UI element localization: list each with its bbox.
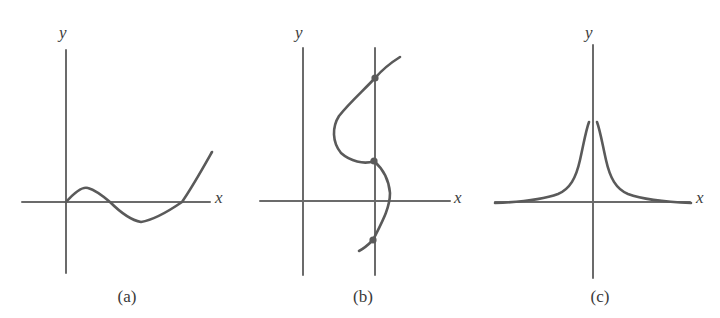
figure-container: y x (a) y x (b) xyxy=(0,0,720,318)
panel-c-caption: (c) xyxy=(560,288,640,305)
intersection-point-bottom xyxy=(369,236,376,243)
x-axis-label: x xyxy=(215,189,223,206)
panel-a-caption: (a) xyxy=(87,288,167,305)
curve-b-path xyxy=(334,57,400,251)
panel-b: y x (b) xyxy=(240,0,480,318)
intersection-point-top xyxy=(371,74,378,81)
curve-c-left-branch xyxy=(495,122,589,203)
x-axis-label: x xyxy=(696,189,704,206)
panel-a: y x (a) xyxy=(0,0,240,318)
y-axis-label: y xyxy=(59,24,67,41)
curve-c-right-branch xyxy=(597,122,691,203)
y-axis-label: y xyxy=(585,24,593,41)
panel-b-caption: (b) xyxy=(323,288,403,305)
panel-a-graph xyxy=(0,0,240,318)
y-axis-label: y xyxy=(295,24,303,41)
panel-c-graph xyxy=(480,0,720,318)
panel-b-graph xyxy=(240,0,480,318)
intersection-point-middle xyxy=(370,157,377,164)
x-axis-label: x xyxy=(454,189,462,206)
panel-c: y x (c) xyxy=(480,0,720,318)
curve-a-path xyxy=(66,152,212,222)
